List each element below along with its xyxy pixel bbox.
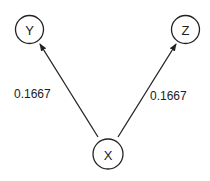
node-y-label: Y — [25, 23, 34, 38]
node-z: Z — [172, 16, 200, 44]
edge-label-x-z: 0.1667 — [150, 89, 187, 103]
node-x: X — [93, 139, 123, 169]
edge-label-x-y: 0.1667 — [14, 87, 51, 101]
graph-canvas: 0.1667 0.1667 Y Z X — [0, 0, 210, 181]
node-x-label: X — [104, 148, 113, 163]
node-y: Y — [16, 16, 44, 44]
node-z-label: Z — [182, 23, 190, 38]
